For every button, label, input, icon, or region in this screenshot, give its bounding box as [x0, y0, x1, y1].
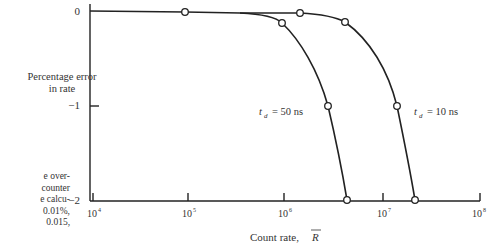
series-50ns-line — [90, 11, 347, 200]
y-axis-label-line2: in rate — [49, 83, 76, 94]
curves — [90, 11, 415, 200]
x-tick-1e4: 10 — [87, 208, 97, 219]
y-tick-minus-2: −2 — [68, 194, 80, 206]
x-tick-labels: 10 4 10 5 10 6 10 7 10 8 — [87, 207, 486, 219]
axes — [90, 4, 480, 201]
series-labels: t d = 50 ns t d = 10 ns — [259, 106, 458, 120]
x-tick-exp: 4 — [98, 207, 101, 213]
x-axis-var: R — [311, 231, 319, 243]
x-tick-exp: 7 — [388, 207, 391, 213]
x-tick-1e8: 10 — [472, 208, 482, 219]
series-50ns-label: = 50 ns — [272, 106, 303, 117]
subscript: d — [419, 112, 423, 120]
x-tick-exp: 6 — [289, 207, 292, 213]
y-axis-label: Percentage error — [27, 71, 97, 82]
y-tick-0: 0 — [75, 5, 81, 17]
series-10ns-label-t: t — [414, 106, 418, 117]
chart: 0 −1 −2 Percentage error in rate 10 4 10… — [0, 0, 488, 247]
x-tick-1e6: 10 — [278, 208, 288, 219]
y-tick-minus-1: −1 — [68, 99, 80, 111]
subscript: d — [264, 112, 268, 120]
x-tick-1e5: 10 — [182, 208, 192, 219]
series-10ns-label: = 10 ns — [427, 106, 458, 117]
series-50ns-label-t: t — [259, 106, 263, 117]
x-tick-exp: 5 — [193, 207, 196, 213]
x-tick-1e7: 10 — [377, 208, 387, 219]
x-axis-label: Count rate, — [250, 231, 299, 243]
x-tick-exp: 8 — [483, 207, 486, 213]
